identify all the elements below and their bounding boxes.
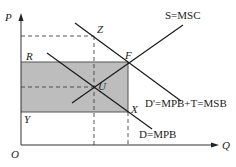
point-f-label: F bbox=[125, 50, 132, 61]
point-x-label: X bbox=[131, 104, 138, 115]
diagram-canvas bbox=[0, 0, 236, 167]
x-axis-arrow-icon bbox=[211, 143, 219, 148]
private-demand-label: D=MPB bbox=[139, 129, 176, 140]
point-z-label: Z bbox=[97, 24, 103, 35]
y-axis-label: P bbox=[5, 12, 12, 23]
y-axis-arrow-icon bbox=[19, 13, 24, 21]
supply-curve-label: S=MSC bbox=[165, 10, 201, 21]
point-y-label: Y bbox=[24, 114, 30, 125]
point-u-label: U bbox=[98, 81, 106, 92]
x-axis-label: Q bbox=[222, 140, 230, 151]
social-demand-label: D'=MPB+T=MSB bbox=[145, 98, 227, 109]
origin-label: O bbox=[11, 149, 19, 160]
point-r-label: R bbox=[26, 51, 33, 62]
